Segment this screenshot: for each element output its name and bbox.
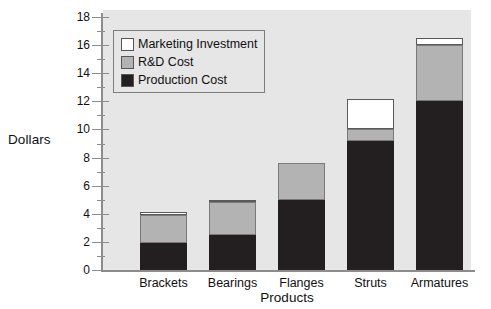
y-tick-label: 16	[64, 38, 90, 52]
y-tick-minor	[97, 256, 105, 257]
legend-swatch-production-icon	[121, 74, 134, 87]
legend-label-marketing: Marketing Investment	[138, 38, 258, 51]
y-tick-minor	[97, 200, 105, 201]
legend-item-marketing-investment: Marketing Investment	[121, 36, 264, 53]
y-axis-title: Dollars	[8, 132, 72, 147]
x-axis-title: Products	[103, 290, 471, 305]
y-tick-major	[92, 45, 109, 46]
bar-armatures	[416, 17, 463, 270]
bar-segment-rd	[347, 129, 394, 140]
bar-segment-production	[209, 235, 256, 270]
bar-segment-marketing	[140, 212, 187, 215]
y-tick-major	[92, 73, 109, 74]
bar-segment-marketing	[416, 38, 463, 45]
y-tick-label: 2	[64, 235, 90, 249]
legend-item-production-cost: Production Cost	[121, 72, 264, 89]
bar-segment-production	[347, 141, 394, 270]
y-tick-major	[92, 242, 109, 243]
chart-legend: Marketing Investment R&D Cost Production…	[113, 30, 265, 93]
legend-label-production: Production Cost	[138, 74, 227, 87]
y-axis-line	[101, 13, 103, 271]
y-tick-label: 8	[64, 151, 90, 165]
bar-segment-production	[416, 101, 463, 270]
y-tick-minor	[97, 87, 105, 88]
y-tick-minor	[97, 31, 105, 32]
y-tick-minor	[97, 144, 105, 145]
y-tick-label: 12	[64, 94, 90, 108]
x-axis-line	[101, 270, 475, 272]
bar-struts	[347, 17, 394, 270]
y-tick-major	[92, 17, 109, 18]
legend-label-rd: R&D Cost	[138, 56, 194, 69]
y-tick-label: 4	[64, 207, 90, 221]
y-tick-minor	[97, 228, 105, 229]
y-tick-minor	[97, 172, 105, 173]
bar-segment-marketing	[209, 200, 256, 202]
bar-segment-rd	[278, 163, 325, 200]
y-tick-label: 6	[64, 179, 90, 193]
category-label-bearings: Bearings	[193, 276, 272, 290]
y-tick-label: 10	[64, 122, 90, 136]
category-label-struts: Struts	[331, 276, 410, 290]
y-tick-major	[92, 270, 109, 271]
stacked-bar-chart: Dollars 024681012141618 BracketsBearings…	[0, 0, 491, 309]
y-tick-major	[92, 129, 109, 130]
y-tick-major	[92, 158, 109, 159]
bar-segment-production	[278, 200, 325, 270]
bar-segment-rd	[416, 45, 463, 101]
y-tick-label: 18	[64, 10, 90, 24]
y-tick-minor	[97, 59, 105, 60]
category-label-armatures: Armatures	[400, 276, 479, 290]
y-tick-major	[92, 214, 109, 215]
y-tick-label: 0	[64, 263, 90, 277]
bar-segment-rd	[209, 202, 256, 235]
legend-item-rd-cost: R&D Cost	[121, 54, 264, 71]
bar-flanges	[278, 17, 325, 270]
legend-swatch-rd-icon	[121, 56, 134, 69]
category-label-brackets: Brackets	[124, 276, 203, 290]
bar-segment-marketing	[347, 99, 394, 130]
category-label-flanges: Flanges	[262, 276, 341, 290]
legend-swatch-marketing-icon	[121, 38, 134, 51]
bar-segment-rd	[140, 215, 187, 243]
y-tick-major	[92, 186, 109, 187]
y-tick-label: 14	[64, 66, 90, 80]
bar-segment-production	[140, 243, 187, 270]
y-tick-major	[92, 101, 109, 102]
y-tick-minor	[97, 115, 105, 116]
